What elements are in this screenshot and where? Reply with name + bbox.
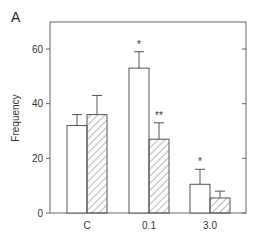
bar-chart: A 0204060 Frequency **** C0.13.0 bbox=[0, 0, 262, 237]
y-tick-label: 60 bbox=[32, 44, 44, 55]
y-tick-label: 20 bbox=[32, 153, 44, 164]
panel-label: A bbox=[11, 9, 21, 25]
significance-marker: * bbox=[137, 39, 141, 50]
bar-white-3.0: * bbox=[190, 156, 210, 213]
significance-marker: * bbox=[198, 156, 202, 167]
y-tick-label: 40 bbox=[32, 98, 44, 109]
bars: **** bbox=[67, 39, 230, 213]
y-axis-title: Frequency bbox=[10, 94, 21, 141]
x-axis-labels: C0.13.0 bbox=[83, 220, 217, 231]
bar-hatched-3.0 bbox=[210, 191, 230, 213]
x-tick-label: C bbox=[83, 220, 90, 231]
x-tick-label: 3.0 bbox=[203, 220, 217, 231]
x-tick-label: 0.1 bbox=[142, 220, 156, 231]
bar-white-C bbox=[67, 115, 87, 213]
significance-marker: ** bbox=[155, 110, 163, 121]
bar-white-0.1: * bbox=[129, 39, 149, 213]
y-tick-label: 0 bbox=[37, 208, 43, 219]
bar-hatched-0.1: ** bbox=[149, 110, 169, 213]
bar-hatched-C bbox=[87, 95, 107, 213]
